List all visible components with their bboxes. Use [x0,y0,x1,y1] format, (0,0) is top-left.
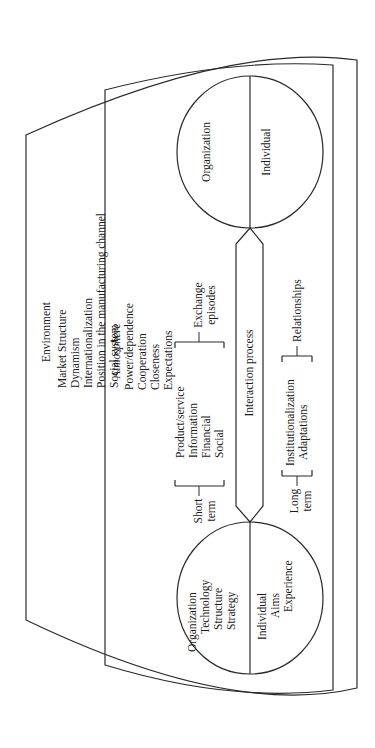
imp-interaction-model-diagram: Environment Market Structure Dynamism In… [0,0,375,748]
relationship-item: Institutionalization [284,379,297,466]
individual-attribute: Aims [269,560,282,640]
short-term-label-line: term [205,496,218,526]
right-organization-label: Organization [200,112,213,192]
exchange-episodes-line: Exchange [192,280,205,330]
relationships-label: Relationships [291,279,304,342]
long-term-label-line: Long [288,486,301,516]
long-term-label-line: term [301,486,314,516]
exchange-item: Product/service [174,386,187,458]
exchange-episodes-label: Exchange episodes [192,280,218,330]
atmosphere-item: Expectations [162,303,175,390]
long-term-label: Long term [288,486,314,516]
left-organization-label: Organization [186,580,199,652]
exchange-item: Financial [200,386,213,458]
right-individual-label: Individual [260,112,273,192]
environment-title: Environment [40,302,53,362]
left-organization-block: Organization Technology Structure Strate… [186,580,238,652]
short-term-label-line: Short [192,496,205,526]
environment-item: Market Structure [56,213,69,388]
atmosphere-item: Power/dependence [123,303,136,390]
atmosphere-list: Atmosphere Power/dependence Cooperation … [110,303,175,390]
left-individual-block: Individual Aims Experience [256,560,295,640]
exchange-item: Social [213,386,226,458]
environment-item: Internationalization [82,213,95,388]
short-term-label: Short term [192,496,218,526]
interaction-process-label: Interaction process [243,308,256,438]
organization-attribute: Structure [212,580,225,652]
relationship-items: Institutionalization Adaptations [284,379,310,466]
atmosphere-item: Closeness [149,303,162,390]
environment-item: Dynamism [69,213,82,388]
organization-attribute: Strategy [225,580,238,652]
atmosphere-item: Cooperation [136,303,149,390]
environment-item: Position in the manufacturing channel [95,213,108,388]
relationship-item: Adaptations [297,379,310,466]
atmosphere-title: Atmosphere [110,303,123,390]
left-individual-label: Individual [256,560,269,640]
exchange-item: Information [187,386,200,458]
exchange-episodes-line: episodes [205,280,218,330]
individual-attribute: Experience [282,560,295,640]
exchange-items: Product/service Information Financial So… [174,386,226,458]
organization-attribute: Technology [199,580,212,652]
